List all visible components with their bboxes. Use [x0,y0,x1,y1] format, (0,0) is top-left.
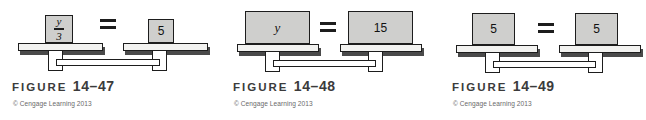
figure-caption: FIGURE 14–48 [233,78,336,94]
figure-panel-14-47: y 3 5 [0,0,215,120]
balance-scale-14-48: y 15 [215,0,430,74]
right-weight-block: 5 [575,13,618,45]
equals-bar-top [538,23,554,26]
right-weight-block: 15 [348,11,413,44]
left-weight-block: y 3 [45,15,73,43]
copyright-notice: © Cengage Learning 2013 [13,100,92,107]
equals-bar-top [320,22,336,25]
figure-panel-14-48: y 15 FIGURE 14–48 [215,0,430,120]
equals-bar-top [100,19,116,22]
right-pan [123,43,208,51]
caption-word: FIGURE [233,81,288,93]
fraction-numerator: y [55,16,64,28]
left-weight-block: y [245,11,310,44]
left-pan [237,44,319,52]
fulcrum-crossbar [273,60,376,67]
left-pan [18,43,103,51]
equals-sign [100,19,116,29]
fulcrum-crossbar [56,59,160,66]
fraction-y-over-3: y 3 [54,16,64,41]
caption-number: 14–48 [294,78,336,94]
figure-panel-14-49: 5 5 FIGURE 14–49 [430,0,646,120]
caption-word: FIGURE [12,81,67,93]
left-weight-label: y [275,20,281,36]
right-pan [559,45,641,53]
left-pan [456,45,538,53]
right-weight-label: 15 [374,21,387,35]
caption-word: FIGURE [452,81,507,93]
figure-sheet: y 3 5 [0,0,646,120]
left-weight-block: 5 [472,13,515,45]
left-weight-label: 5 [490,22,497,36]
copyright-notice: © Cengage Learning 2013 [453,100,532,107]
right-pan [340,44,422,52]
equals-bar-bottom [320,29,336,32]
caption-number: 14–49 [513,78,555,94]
right-weight-label: 5 [593,22,600,36]
right-weight-block: 5 [148,19,174,43]
balance-scale-14-49: 5 5 [430,0,646,74]
copyright-notice: © Cengage Learning 2013 [234,100,313,107]
equals-bar-bottom [538,30,554,33]
fraction-denominator: 3 [54,30,64,42]
right-weight-label: 5 [158,24,165,38]
figure-caption: FIGURE 14–49 [452,78,555,94]
equals-sign [320,22,336,32]
caption-number: 14–47 [73,78,115,94]
equals-sign [538,23,554,33]
figure-caption: FIGURE 14–47 [12,78,115,94]
equals-bar-bottom [100,26,116,29]
fulcrum-crossbar [493,61,596,68]
balance-scale-14-47: y 3 5 [0,0,215,74]
